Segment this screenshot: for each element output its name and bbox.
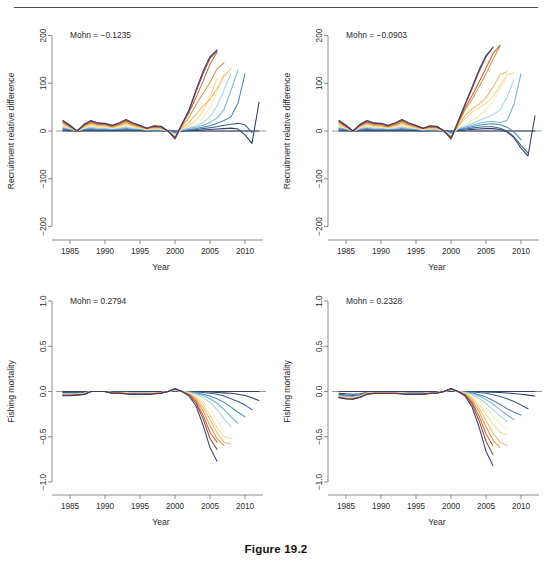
y-tick-label: −200 (39, 217, 48, 236)
x-axis-title: Year (152, 262, 170, 272)
x-tick-label: 2005 (201, 502, 220, 511)
plot-area: −200−1000100200198519901995200020052010Y… (6, 28, 266, 272)
x-tick-label: 2010 (236, 502, 255, 511)
y-tick-label: −0.5 (39, 428, 48, 445)
mohn-annotation: Mohn = 0.2794 (70, 296, 126, 306)
x-tick-label: 2000 (166, 247, 185, 256)
x-tick-label: 1990 (96, 247, 115, 256)
plot-top-right: −200−1000100200198519901995200020052010Y… (276, 12, 552, 284)
x-tick-label: 2010 (236, 247, 255, 256)
figure-page: −200−1000100200198519901995200020052010Y… (0, 0, 552, 571)
y-axis-title: Fishing mortality (282, 360, 292, 423)
y-tick-label: 100 (39, 76, 48, 90)
y-tick-label: −0.5 (315, 428, 324, 445)
y-tick-label: −100 (39, 169, 48, 188)
x-axis-title: Year (152, 517, 170, 527)
x-tick-label: 2005 (477, 247, 496, 256)
y-tick-label: −200 (315, 217, 324, 236)
mohn-annotation: Mohn = −0.0903 (346, 30, 407, 40)
panel-bottom-right: −1.0−0.50.00.51.019851990199520002005201… (276, 284, 552, 537)
panel-bottom-left: −1.0−0.50.00.51.019851990199520002005201… (0, 284, 276, 537)
y-axis-title: Fishing mortality (6, 360, 16, 423)
plot-area: −1.0−0.50.00.51.019851990199520002005201… (282, 295, 542, 527)
x-tick-label: 2000 (442, 502, 461, 511)
y-tick-label: 0.0 (315, 385, 324, 397)
y-tick-label: 1.0 (315, 295, 324, 307)
x-tick-label: 1995 (131, 502, 150, 511)
y-axis-title: Recruitment relative difference (282, 73, 292, 190)
x-tick-label: 2010 (512, 502, 531, 511)
mohn-annotation: Mohn = 0.2328 (346, 296, 402, 306)
x-tick-label: 1985 (337, 247, 356, 256)
x-tick-label: 1995 (131, 247, 150, 256)
page-header-rule (14, 7, 538, 8)
panel-top-left: −200−1000100200198519901995200020052010Y… (0, 12, 276, 284)
y-tick-label: −100 (315, 169, 324, 188)
x-tick-label: 1985 (61, 502, 80, 511)
x-tick-label: 1990 (372, 247, 391, 256)
x-tick-label: 1985 (61, 247, 80, 256)
x-tick-label: 1995 (407, 502, 426, 511)
plot-area: −200−1000100200198519901995200020052010Y… (282, 28, 542, 272)
x-tick-label: 2005 (477, 502, 496, 511)
mohn-annotation: Mohn = −0.1235 (70, 30, 131, 40)
x-tick-label: 1985 (337, 502, 356, 511)
y-tick-label: 0.0 (39, 385, 48, 397)
y-tick-label: −1.0 (315, 473, 324, 490)
y-tick-label: 200 (39, 28, 48, 42)
panel-grid: −200−1000100200198519901995200020052010Y… (0, 12, 552, 537)
plot-bottom-left: −1.0−0.50.00.51.019851990199520002005201… (0, 284, 276, 537)
y-tick-label: 200 (315, 28, 324, 42)
x-tick-label: 1995 (407, 247, 426, 256)
y-tick-label: 1.0 (39, 295, 48, 307)
panel-top-right: −200−1000100200198519901995200020052010Y… (276, 12, 552, 284)
plot-bottom-right: −1.0−0.50.00.51.019851990199520002005201… (276, 284, 552, 537)
y-tick-label: 0 (39, 128, 48, 133)
x-axis-title: Year (428, 517, 446, 527)
y-tick-label: 100 (315, 76, 324, 90)
plot-area: −1.0−0.50.00.51.019851990199520002005201… (6, 295, 266, 527)
figure-caption: Figure 19.2 (0, 543, 552, 555)
y-axis-title: Recruitment relative difference (6, 73, 16, 190)
x-tick-label: 2000 (166, 502, 185, 511)
x-tick-label: 2005 (201, 247, 220, 256)
x-tick-label: 2000 (442, 247, 461, 256)
x-axis-title: Year (428, 262, 446, 272)
plot-top-left: −200−1000100200198519901995200020052010Y… (0, 12, 276, 284)
y-tick-label: 0.5 (315, 340, 324, 352)
x-tick-label: 1990 (96, 502, 115, 511)
y-tick-label: 0 (315, 128, 324, 133)
y-tick-label: −1.0 (39, 473, 48, 490)
y-tick-label: 0.5 (39, 340, 48, 352)
x-tick-label: 1990 (372, 502, 391, 511)
x-tick-label: 2010 (512, 247, 531, 256)
